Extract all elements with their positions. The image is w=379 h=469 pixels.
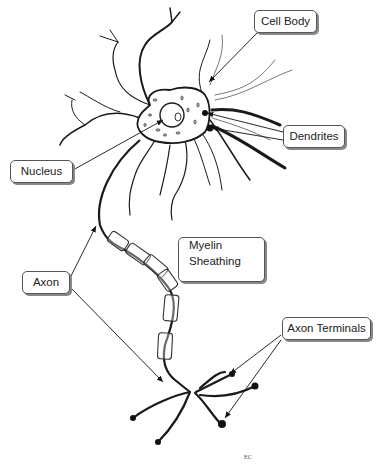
label-axon-terminals-text: Axon Terminals — [287, 321, 365, 337]
myelin-segments — [106, 230, 179, 359]
label-axon-terminals: Axon Terminals — [282, 317, 371, 340]
neuron-drawing — [0, 0, 379, 469]
axon — [99, 140, 190, 392]
artist-signature: EC — [244, 454, 252, 460]
label-cell-body: Cell Body — [254, 10, 317, 33]
label-dendrites-text: Dendrites — [289, 129, 338, 145]
label-nucleus-text: Nucleus — [21, 164, 63, 180]
label-nucleus: Nucleus — [10, 160, 73, 183]
label-myelin-line1: Myelin — [189, 238, 222, 254]
label-axon-text: Axon — [33, 275, 59, 291]
label-myelin-sheathing: Myelin Sheathing — [178, 237, 265, 282]
label-myelin-line2: Sheathing — [189, 254, 241, 270]
axon-terminals — [133, 372, 255, 442]
label-axon: Axon — [22, 271, 70, 294]
label-dendrites: Dendrites — [283, 125, 345, 148]
label-cell-body-text: Cell Body — [261, 14, 310, 30]
